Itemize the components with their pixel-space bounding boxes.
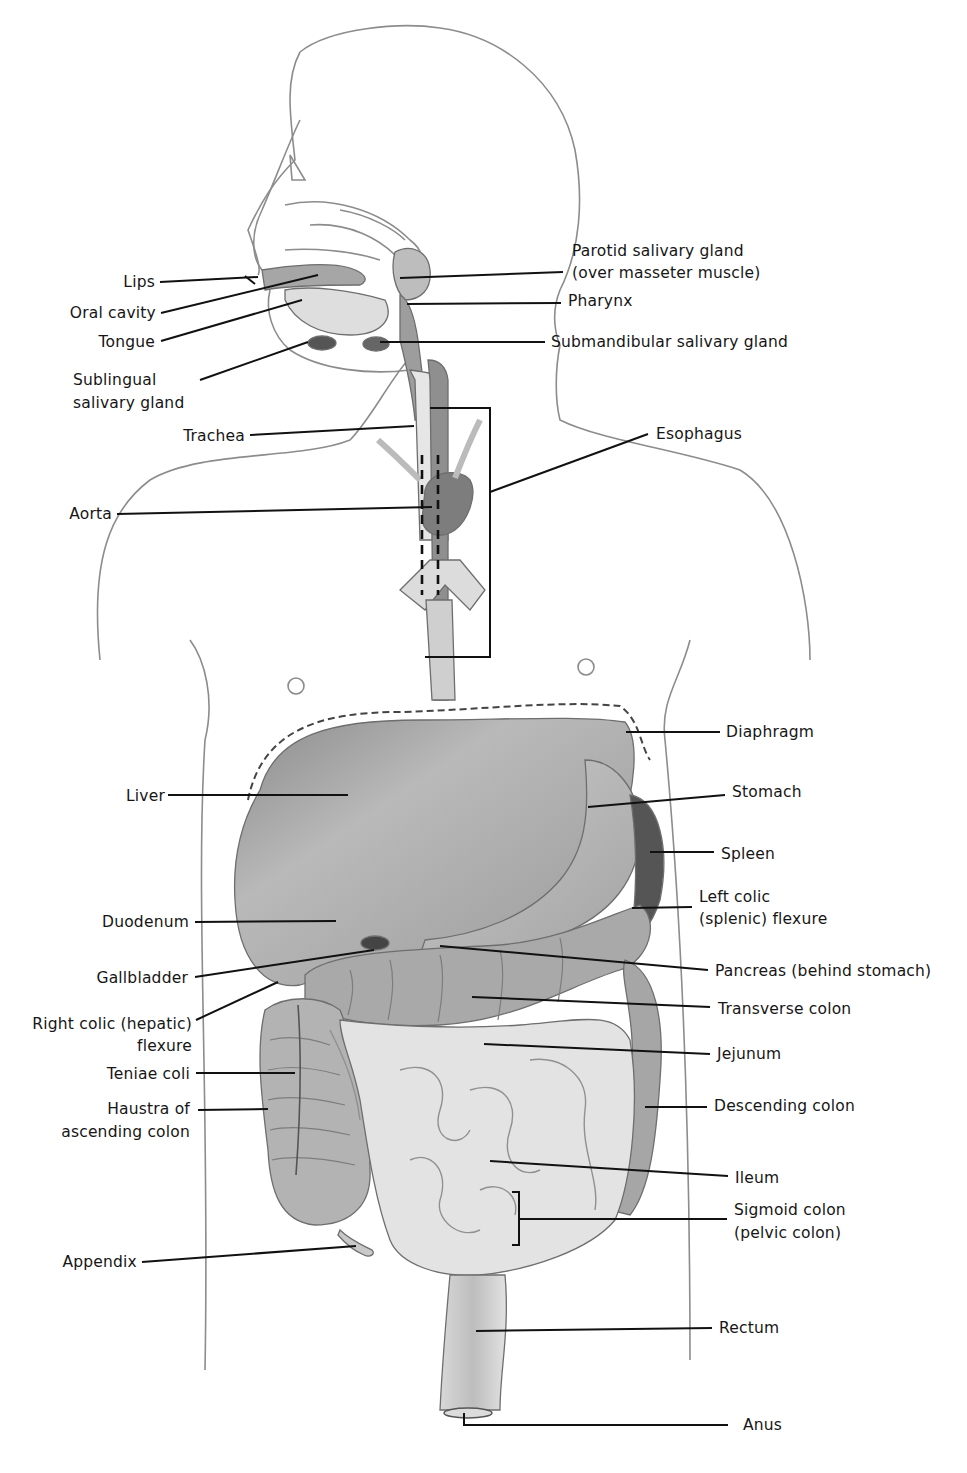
label-ileum: Ileum [735,1167,779,1189]
label-pancreas: Pancreas (behind stomach) [715,960,931,982]
label-submandibular: Submandibular salivary gland [551,331,788,353]
label-gallbladder: Gallbladder [96,967,188,989]
leader-tongue [161,300,302,341]
label-teniae-coli: Teniae coli [107,1063,190,1085]
leader-trachea [250,426,414,435]
label-appendix: Appendix [62,1251,137,1273]
leader-aorta [117,507,432,514]
label-sigmoid-line2: (pelvic colon) [734,1222,841,1244]
label-sublingual-line2: salivary gland [73,392,184,414]
label-spleen: Spleen [721,843,775,865]
anatomy-illustration [0,0,967,1473]
label-sublingual-line1: Sublingual [73,369,156,391]
label-esophagus: Esophagus [656,423,742,445]
label-descending-colon: Descending colon [714,1095,855,1117]
label-rectum: Rectum [719,1317,779,1339]
oral-structures [262,249,430,420]
leader-esophagus [490,434,648,492]
label-haustra-line2: ascending colon [61,1121,190,1143]
anus-shape [444,1408,492,1418]
leader-left-colic [632,907,692,908]
digestive-system-diagram: Lips Oral cavity Tongue Sublingual saliv… [0,0,967,1473]
label-oral-cavity: Oral cavity [70,302,156,324]
leader-lips [160,277,258,282]
appendix-shape [338,1230,373,1256]
leader-appendix [142,1246,356,1262]
label-right-colic-line1: Right colic (hepatic) [32,1013,192,1035]
label-duodenum: Duodenum [102,911,189,933]
rectum-shape [440,1275,506,1410]
label-lips: Lips [123,271,155,293]
label-stomach: Stomach [732,781,802,803]
leader-duodenum [195,921,336,922]
label-parotid-line2: (over masseter muscle) [572,262,761,284]
label-anus: Anus [743,1414,782,1436]
leader-rectum [476,1328,712,1331]
label-tongue: Tongue [98,331,155,353]
label-haustra-line1: Haustra of [107,1098,190,1120]
label-transverse-colon: Transverse colon [718,998,851,1020]
label-parotid-line1: Parotid salivary gland [572,240,744,262]
leader-pharynx [407,303,561,304]
leader-sublingual [200,342,308,380]
label-jejunum: Jejunum [717,1043,781,1065]
label-aorta: Aorta [69,503,112,525]
label-left-colic-line1: Left colic [699,886,770,908]
label-right-colic-line2: flexure [137,1035,192,1057]
small-intestine-shape [340,1019,634,1275]
leader-anus [464,1413,728,1425]
gallbladder-shape [361,936,389,950]
label-trachea: Trachea [183,425,245,447]
label-left-colic-line2: (splenic) flexure [699,908,827,930]
label-diaphragm: Diaphragm [726,721,814,743]
label-liver: Liver [126,785,165,807]
thoracic-structures [378,360,485,700]
label-pharynx: Pharynx [568,290,633,312]
label-sigmoid-line1: Sigmoid colon [734,1199,846,1221]
leader-haustra [198,1109,268,1110]
